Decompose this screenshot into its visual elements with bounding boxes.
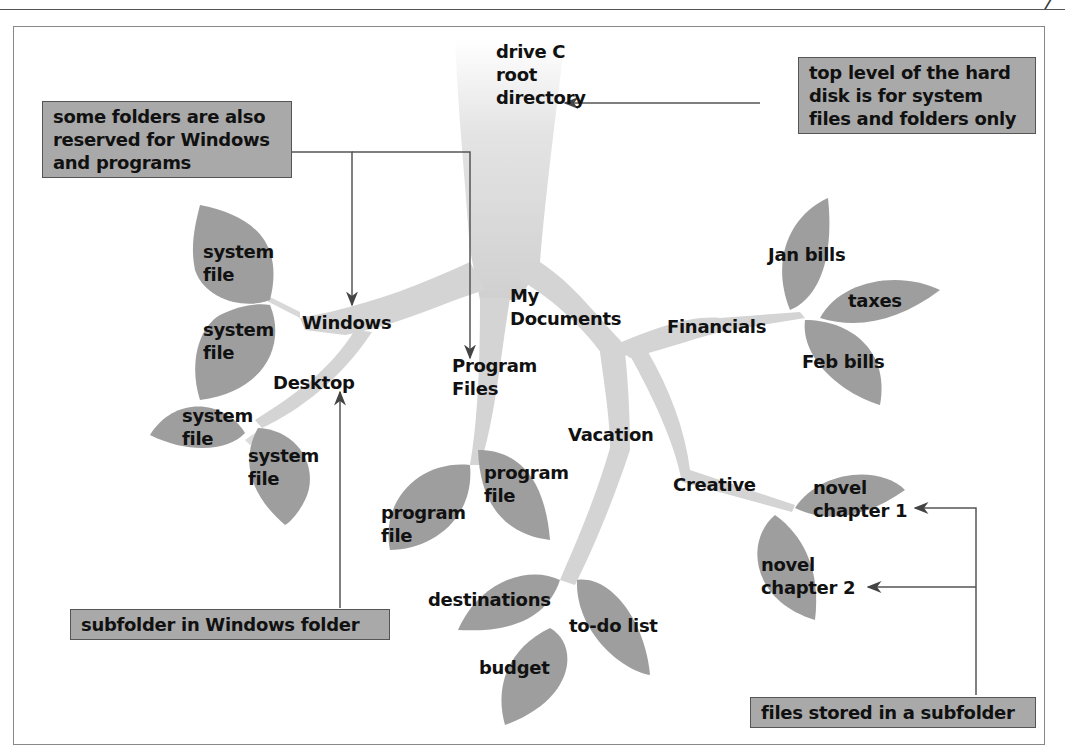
vacation-branch (560, 352, 630, 585)
root-label: drive C root directory (496, 40, 586, 109)
file-taxes: taxes (848, 289, 902, 312)
callout-files-stored: files stored in a subfolder (750, 697, 1036, 728)
file-feb-bills: Feb bills (802, 350, 884, 373)
file-destinations: destinations (428, 588, 551, 611)
file-budget: budget (479, 656, 549, 679)
arrow-reserved-windows (292, 152, 352, 305)
file-windows-1: system file (203, 240, 274, 286)
file-desktop-2: system file (248, 444, 319, 490)
file-program-2: program file (484, 461, 569, 507)
file-novel-chapter-2: novel chapter 2 (761, 553, 855, 599)
file-program-1: program file (381, 501, 466, 547)
file-to-do-list: to-do list (569, 614, 658, 637)
folder-windows: Windows (302, 311, 391, 334)
folder-vacation: Vacation (568, 423, 653, 446)
arrow-novel-chapter-1 (915, 508, 976, 695)
folder-creative: Creative (673, 473, 756, 496)
folder-program-files: Program Files (452, 354, 537, 400)
file-desktop-1: system file (182, 404, 253, 450)
file-windows-2: system file (203, 318, 274, 364)
file-jan-bills: Jan bills (768, 243, 845, 266)
callout-reserved-folders: some folders are also reserved for Windo… (42, 101, 292, 178)
folder-desktop: Desktop (273, 371, 355, 394)
file-novel-chapter-1: novel chapter 1 (813, 476, 907, 522)
callout-subfolder: subfolder in Windows folder (70, 609, 390, 640)
folder-my-documents: My Documents (510, 284, 621, 330)
folder-financials: Financials (667, 315, 766, 338)
callout-top-level: top level of the hard disk is for system… (798, 57, 1036, 134)
